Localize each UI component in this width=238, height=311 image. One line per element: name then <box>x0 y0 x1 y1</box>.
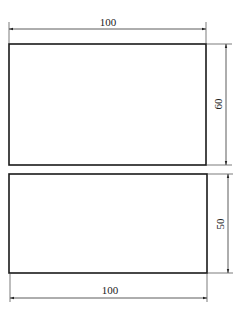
technical-drawing: 100 60 50 100 <box>0 0 238 311</box>
top-height-dimension: 60 <box>206 44 232 165</box>
top-width-label: 100 <box>100 16 117 28</box>
bottom-width-label: 100 <box>102 284 119 296</box>
top-width-dimension: 100 <box>9 16 206 44</box>
bottom-rectangle <box>9 174 207 273</box>
top-rectangle <box>9 44 206 165</box>
bottom-height-label: 50 <box>214 218 226 230</box>
top-height-label: 60 <box>212 98 224 110</box>
bottom-width-dimension: 100 <box>10 273 207 302</box>
bottom-height-dimension: 50 <box>207 174 233 273</box>
